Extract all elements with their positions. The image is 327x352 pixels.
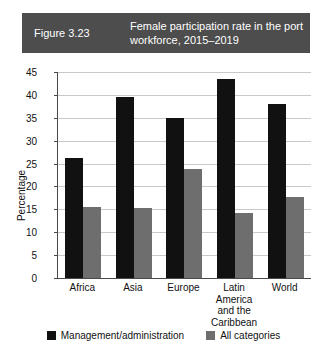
- chart-plot-wrapper: Percentage 051015202530354045 AfricaAsia…: [0, 60, 327, 328]
- legend-swatch-icon: [206, 331, 215, 340]
- category-label-line: and the: [209, 305, 260, 317]
- bar: [134, 208, 152, 278]
- bar-group: [109, 72, 160, 278]
- figure-container: Figure 3.23 Female participation rate in…: [0, 0, 327, 352]
- category-label-line: Caribbean: [209, 317, 260, 329]
- x-axis-category-label: Africa: [57, 282, 108, 294]
- legend-item[interactable]: Management/administration: [47, 330, 184, 341]
- bar: [235, 213, 253, 278]
- y-axis-tick-label: 25: [0, 158, 37, 169]
- bar-group: [58, 72, 109, 278]
- plot-area: 051015202530354045: [57, 72, 311, 279]
- bar: [83, 207, 101, 278]
- y-axis-tick-label: 45: [0, 67, 37, 78]
- bar: [286, 197, 304, 278]
- bar: [184, 169, 202, 278]
- y-axis-tick-label: 0: [0, 273, 37, 284]
- category-label-line: Europe: [158, 282, 209, 294]
- y-axis-tick-label: 40: [0, 89, 37, 100]
- bar: [166, 118, 184, 278]
- bar-group: [159, 72, 210, 278]
- bar-group: [210, 72, 261, 278]
- figure-title-text: Female participation rate in the port wo…: [130, 19, 304, 47]
- y-axis-tick-label: 20: [0, 181, 37, 192]
- category-label-line: Africa: [57, 282, 108, 294]
- bar: [217, 79, 235, 278]
- y-axis-tick-label: 35: [0, 112, 37, 123]
- legend-label: All categories: [220, 330, 280, 341]
- x-axis-category-label: Asia: [108, 282, 159, 294]
- bar-group: [260, 72, 311, 278]
- y-axis-title: Percentage: [16, 131, 27, 261]
- x-axis-category-label: World: [259, 282, 310, 294]
- category-label-line: Asia: [108, 282, 159, 294]
- x-axis-category-label: Europe: [158, 282, 209, 294]
- legend-label: Management/administration: [61, 330, 184, 341]
- bar: [65, 158, 83, 278]
- y-axis-tick-label: 10: [0, 227, 37, 238]
- y-axis-tick-label: 5: [0, 250, 37, 261]
- y-axis-tick-label: 30: [0, 135, 37, 146]
- category-label-line: World: [259, 282, 310, 294]
- y-axis-tick-label: 15: [0, 204, 37, 215]
- chart-legend: Management/administrationAll categories: [0, 330, 327, 341]
- figure-title-banner: Figure 3.23 Female participation rate in…: [22, 13, 310, 53]
- x-axis-category-label: Latin Americaand theCaribbean: [209, 282, 260, 328]
- bar: [116, 97, 134, 278]
- legend-item[interactable]: All categories: [206, 330, 280, 341]
- figure-number-label: Figure 3.23: [34, 26, 130, 40]
- bar: [268, 104, 286, 278]
- category-label-line: Latin America: [209, 282, 260, 305]
- y-axis-tickmark: [54, 278, 58, 279]
- legend-swatch-icon: [47, 331, 56, 340]
